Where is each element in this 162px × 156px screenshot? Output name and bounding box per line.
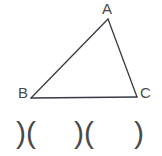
paren-pair-middle: )( bbox=[74, 116, 94, 150]
vertex-label-a: A bbox=[102, 1, 112, 16]
vertex-label-b: B bbox=[18, 85, 28, 100]
side-bc bbox=[31, 97, 137, 98]
paren-single-right: ) bbox=[134, 116, 144, 150]
paren-pair-left: )( bbox=[16, 116, 36, 150]
vertex-label-c: C bbox=[140, 85, 151, 100]
figure-canvas: A B C )( )( ) bbox=[0, 0, 162, 156]
side-ab bbox=[31, 19, 108, 98]
side-ac bbox=[108, 19, 137, 97]
